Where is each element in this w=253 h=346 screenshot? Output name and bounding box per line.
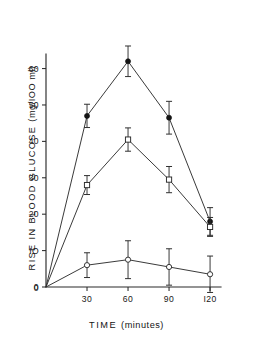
data-point-open-square <box>125 137 130 142</box>
data-point-open-circle <box>207 272 212 277</box>
x-axis-tick-labels: 0306090I20 <box>34 283 217 305</box>
x-tick-label: 60 <box>123 294 133 304</box>
x-axis-title: TIME (minutes) <box>0 320 253 330</box>
data-point-open-circle <box>84 263 89 268</box>
series-open-circle <box>46 241 213 293</box>
data-point-open-square <box>166 177 171 182</box>
y-axis-title-main: RISE IN BLOOD GLUCOSE <box>27 126 37 271</box>
y-axis-ticks <box>42 69 46 287</box>
data-point-filled-circle <box>126 59 131 64</box>
y-axis-title-unit: (mg/IOO ml) <box>27 66 37 122</box>
data-point-filled-circle <box>167 115 172 120</box>
data-series-layer <box>46 46 213 292</box>
y-axis-title-container: RISE IN BLOOD GLUCOSE (mg/IOO ml) <box>21 33 37 303</box>
chart-figure: 0IO2030405060 0306090I20 RISE IN BLOOD G… <box>0 0 253 346</box>
data-point-open-circle <box>166 264 171 269</box>
x-axis-title-main: TIME <box>89 320 117 330</box>
chart-plot-area: 0IO2030405060 0306090I20 <box>0 0 253 346</box>
x-tick-label: I20 <box>203 294 216 304</box>
series-open-square <box>46 128 213 287</box>
x-tick-label: 90 <box>164 294 174 304</box>
data-point-filled-circle <box>85 113 90 118</box>
axes-group <box>46 54 221 287</box>
x-axis-ticks <box>87 287 210 291</box>
data-point-open-circle <box>125 257 130 262</box>
data-point-open-square <box>84 182 89 187</box>
x-axis-title-unit: (minutes) <box>121 320 164 330</box>
series-filled-circle <box>46 46 213 287</box>
data-point-open-square <box>207 224 212 229</box>
y-axis-title: RISE IN BLOOD GLUCOSE (mg/IOO ml) <box>27 66 37 271</box>
x-tick-label: 30 <box>82 294 92 304</box>
